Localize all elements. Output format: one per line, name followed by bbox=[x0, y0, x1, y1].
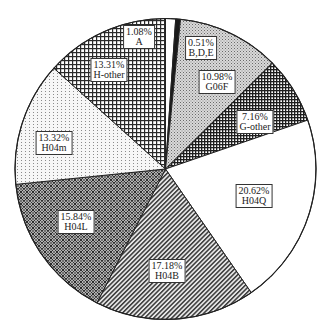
label-g-other-name: G-other bbox=[239, 122, 270, 132]
label-g-other: 7.16% G-other bbox=[236, 110, 273, 134]
label-h04q: 20.62% H04Q bbox=[236, 184, 273, 208]
label-h04m: 13.32% H04m bbox=[36, 131, 73, 155]
label-h04q-name: H04Q bbox=[239, 196, 270, 206]
pie-chart bbox=[0, 0, 329, 334]
label-a: 1.08% A bbox=[123, 25, 155, 49]
label-h04b: 17.18% H04B bbox=[149, 259, 186, 283]
label-a-name: A bbox=[126, 37, 152, 47]
label-bde-name: B,D,E bbox=[188, 48, 214, 58]
label-h04b-name: H04B bbox=[152, 271, 183, 281]
label-g06f-name: G06F bbox=[202, 82, 233, 92]
label-bde: 0.51% B,D,E bbox=[185, 36, 217, 60]
label-h-other: 13.31% H-other bbox=[90, 58, 127, 82]
label-g06f: 10.98% G06F bbox=[199, 70, 236, 94]
label-h04l: 15.84% H04L bbox=[58, 210, 95, 234]
label-h-other-name: H-other bbox=[93, 70, 124, 80]
label-h04m-name: H04m bbox=[39, 143, 70, 153]
label-h04l-name: H04L bbox=[61, 222, 92, 232]
